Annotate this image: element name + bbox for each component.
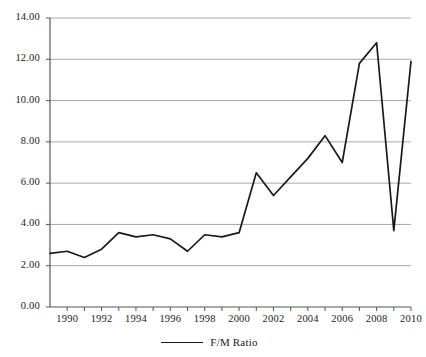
x-tick-label: 2010 [391,313,426,324]
x-axis-ticks [67,307,411,311]
y-tick-label: 8.00 [2,135,40,146]
gridlines [50,18,411,266]
legend-line-swatch [161,342,203,343]
y-tick-label: 2.00 [2,259,40,270]
y-tick-label: 10.00 [2,94,40,105]
y-tick-label: 14.00 [2,11,40,22]
data-series-group [50,43,411,258]
y-tick-label: 0.00 [2,300,40,311]
y-tick-label: 12.00 [2,52,40,63]
y-tick-label: 4.00 [2,217,40,228]
y-tick-label: 6.00 [2,176,40,187]
axis-lines [50,18,411,307]
chart-legend: F/M Ratio [0,336,419,348]
legend-label-fm-ratio: F/M Ratio [210,336,257,348]
